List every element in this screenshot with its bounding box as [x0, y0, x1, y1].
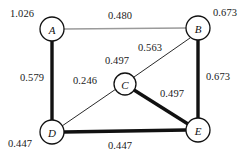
node-a-label: A — [48, 24, 56, 36]
node-c[interactable]: C — [114, 73, 136, 95]
edge-weight-b-e: 0.673 — [206, 71, 230, 83]
node-c-label: C — [121, 79, 129, 91]
edge-weight-c-d: 0.246 — [73, 75, 97, 87]
node-value-d: 0.447 — [8, 138, 32, 150]
edge-c-d — [62, 89, 116, 126]
node-e-label: E — [194, 125, 202, 137]
edge-weight-c-e: 0.497 — [160, 88, 184, 100]
node-d-label: D — [47, 127, 56, 139]
edge-weight-a-d: 0.579 — [20, 72, 44, 84]
edge-weight-b-c: 0.563 — [138, 42, 162, 54]
node-value-b: 0.673 — [213, 7, 237, 19]
edge-weight-d-e: 0.447 — [108, 140, 132, 152]
node-value-a: 1.026 — [10, 8, 34, 20]
node-layer: A B C D E — [40, 16, 210, 144]
graph-diagram: A B C D E 1.026 0.673 0.447 0.480 0.57 — [0, 0, 250, 158]
edge-d-e — [64, 130, 186, 132]
node-e[interactable]: E — [186, 118, 210, 142]
node-value-c: 0.497 — [105, 55, 129, 67]
edge-weight-a-b: 0.480 — [108, 10, 132, 22]
edge-a-b — [64, 28, 186, 29]
node-b-label: B — [195, 23, 202, 35]
node-d[interactable]: D — [40, 120, 64, 144]
node-a[interactable]: A — [40, 17, 64, 41]
node-b[interactable]: B — [186, 16, 210, 40]
